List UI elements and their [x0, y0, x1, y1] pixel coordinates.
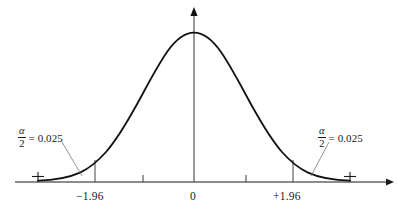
alpha-value-left: = 0.025	[26, 133, 63, 144]
alpha-over-two-label-left: α 2 = 0.025	[18, 126, 63, 150]
distribution-plot-svg	[0, 0, 397, 213]
leader-line-left	[62, 142, 82, 176]
alpha-denominator-right: 2	[318, 139, 326, 150]
normal-distribution-figure: α 2 = 0.025 α 2 = 0.025 −1.96 0 +1.96	[0, 0, 397, 213]
x-axis-arrowhead	[386, 178, 394, 185]
alpha-value-right: = 0.025	[326, 133, 363, 144]
y-axis-arrowhead	[190, 7, 197, 16]
alpha-fraction-right: α 2	[318, 126, 326, 150]
alpha-numerator-left: α	[18, 126, 26, 137]
alpha-fraction-left: α 2	[18, 126, 26, 150]
alpha-denominator-left: 2	[18, 139, 26, 150]
x-tick-label-positive-196: +1.96	[273, 190, 301, 202]
alpha-over-two-label-right: α 2 = 0.025	[318, 126, 363, 150]
x-tick-label-negative-196: −1.96	[76, 190, 104, 202]
alpha-numerator-right: α	[318, 126, 326, 137]
x-tick-label-zero: 0	[190, 190, 196, 202]
